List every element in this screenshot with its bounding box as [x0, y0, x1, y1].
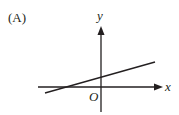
- x-axis-arrow-icon: [154, 84, 163, 91]
- y-axis-label: y: [97, 8, 103, 24]
- function-line: [45, 62, 155, 93]
- x-axis-label: x: [165, 79, 171, 95]
- origin-label: O: [89, 89, 98, 105]
- y-axis-arrow-icon: [98, 26, 105, 35]
